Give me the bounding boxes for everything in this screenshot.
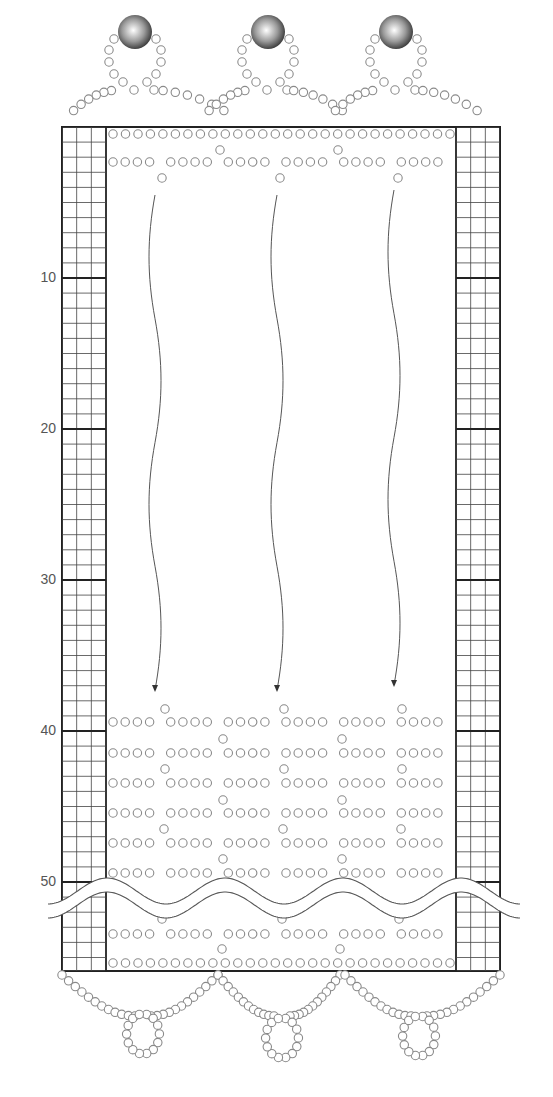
break-gap xyxy=(48,878,520,918)
bead xyxy=(376,779,384,787)
bead xyxy=(133,809,141,817)
bead xyxy=(408,130,416,138)
bead xyxy=(346,959,354,967)
bead xyxy=(271,130,279,138)
bead xyxy=(366,46,374,54)
bead xyxy=(203,869,211,877)
bead xyxy=(418,58,426,66)
bead xyxy=(249,749,257,757)
bead xyxy=(121,130,129,138)
arrow-right-icon xyxy=(388,190,400,687)
bead xyxy=(352,779,360,787)
bead xyxy=(409,749,417,757)
bead xyxy=(397,779,405,787)
bead xyxy=(340,158,348,166)
bead xyxy=(397,839,405,847)
bead xyxy=(167,869,175,877)
bead xyxy=(191,839,199,847)
bead xyxy=(224,809,232,817)
beading-pattern-diagram: 1020304050 xyxy=(0,0,553,1097)
bead xyxy=(261,779,269,787)
bead xyxy=(358,130,366,138)
bead xyxy=(145,869,153,877)
bead xyxy=(364,749,372,757)
bead xyxy=(133,869,141,877)
bead xyxy=(236,809,244,817)
bead xyxy=(179,718,187,726)
drop-bead xyxy=(276,174,284,182)
bead xyxy=(121,930,129,938)
bead xyxy=(110,70,118,78)
bead xyxy=(121,809,129,817)
bead xyxy=(340,779,348,787)
bead xyxy=(434,749,442,757)
bead-row-grouped xyxy=(109,158,442,166)
bead-row-drop xyxy=(158,174,402,182)
bead xyxy=(404,78,412,86)
bead xyxy=(249,930,257,938)
bead xyxy=(352,749,360,757)
bead xyxy=(179,779,187,787)
bead xyxy=(167,749,175,757)
bead xyxy=(296,130,304,138)
bead xyxy=(306,869,314,877)
drop-bead xyxy=(338,796,346,804)
bead-row-grouped xyxy=(109,839,442,847)
bead xyxy=(398,1032,406,1040)
bead xyxy=(433,959,441,967)
bead xyxy=(224,869,232,877)
bead xyxy=(134,959,142,967)
bead xyxy=(154,1021,162,1029)
right-grid-column xyxy=(456,127,500,971)
bead xyxy=(340,839,348,847)
bead xyxy=(299,88,307,96)
bead-row-drop xyxy=(161,705,406,713)
bead xyxy=(352,718,360,726)
bead xyxy=(422,809,430,817)
bead xyxy=(434,779,442,787)
bead xyxy=(179,809,187,817)
bead xyxy=(434,809,442,817)
bead xyxy=(431,1032,439,1040)
bead xyxy=(133,749,141,757)
bead xyxy=(263,1043,271,1051)
bead xyxy=(261,809,269,817)
bead xyxy=(397,809,405,817)
bead xyxy=(306,749,314,757)
bead xyxy=(340,718,348,726)
bead xyxy=(364,809,372,817)
bead xyxy=(319,95,327,103)
row-label-40: 40 xyxy=(40,722,56,738)
bead xyxy=(282,930,290,938)
drop-bead xyxy=(280,705,288,713)
bead xyxy=(203,158,211,166)
bead xyxy=(411,86,419,94)
bead xyxy=(294,1034,302,1042)
bead xyxy=(282,839,290,847)
bead xyxy=(422,930,430,938)
bead xyxy=(446,130,454,138)
drop-bead xyxy=(219,735,227,743)
bead xyxy=(285,70,293,78)
bead-row-drop xyxy=(219,855,346,863)
bead xyxy=(422,718,430,726)
bead xyxy=(109,959,117,967)
bead xyxy=(411,1012,419,1020)
bead xyxy=(294,869,302,877)
bead xyxy=(413,70,421,78)
bead-row-drop xyxy=(160,825,405,833)
drop-bead xyxy=(334,146,342,154)
bead xyxy=(143,78,151,86)
bead xyxy=(409,869,417,877)
bead xyxy=(409,930,417,938)
bead xyxy=(224,158,232,166)
bead xyxy=(146,959,154,967)
bead xyxy=(261,839,269,847)
bead xyxy=(259,130,267,138)
bead xyxy=(130,86,138,94)
bead xyxy=(77,100,85,108)
bead xyxy=(380,78,388,86)
bead xyxy=(249,809,257,817)
bead xyxy=(249,718,257,726)
bead xyxy=(352,158,360,166)
